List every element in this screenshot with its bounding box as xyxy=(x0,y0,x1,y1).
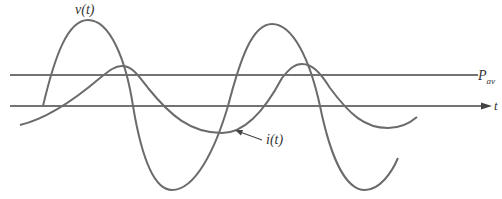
average-power-label: Pav xyxy=(477,68,495,86)
current-label-pointer xyxy=(240,132,262,140)
current-label-arrowhead-icon xyxy=(235,130,243,136)
average-power-symbol: P xyxy=(477,68,487,83)
average-power-subscript: av xyxy=(487,76,496,86)
time-axis-arrowhead-icon xyxy=(481,103,492,110)
voltage-label: v(t) xyxy=(75,2,95,18)
power-waveform-diagram: v(t) i(t) Pav t xyxy=(0,0,502,199)
current-label: i(t) xyxy=(266,132,283,148)
time-axis-label: t xyxy=(494,98,498,113)
